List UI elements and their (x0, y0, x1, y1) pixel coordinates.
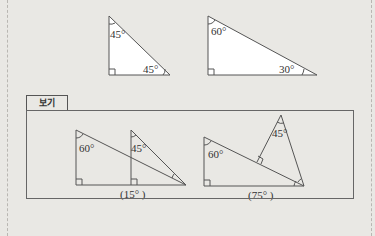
angle-label: 45° (110, 28, 125, 40)
example-box (26, 110, 354, 199)
angle-label: 45° (143, 63, 158, 75)
angle-label: 60° (211, 25, 226, 37)
triangle-45-45-90 (109, 16, 170, 75)
angle-label: 30° (279, 63, 294, 75)
example-label: 보기 (26, 95, 68, 110)
